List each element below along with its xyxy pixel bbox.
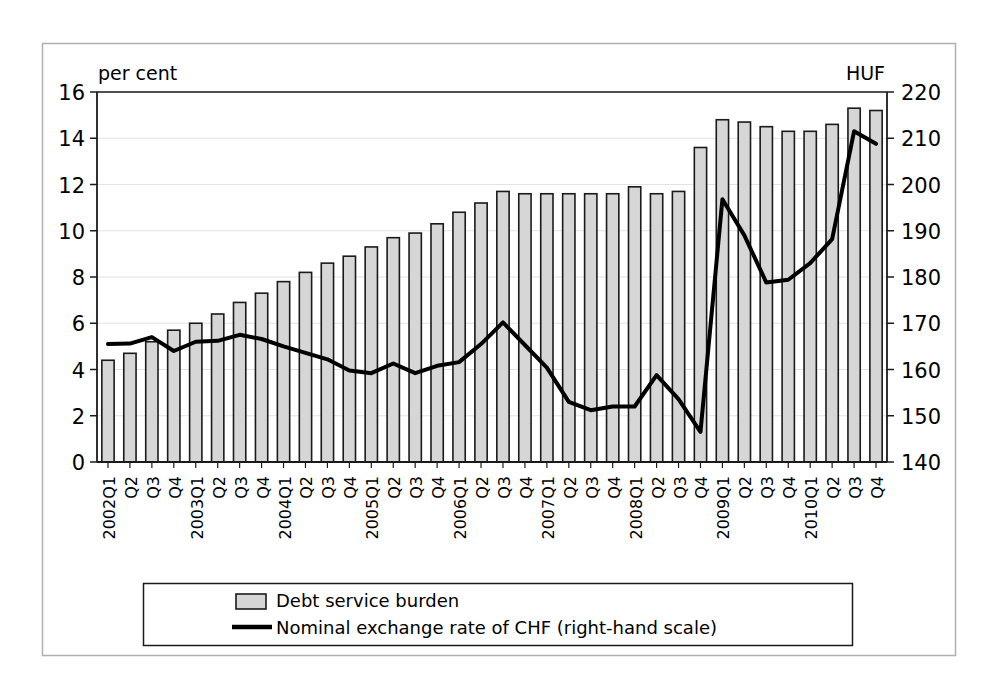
bar — [475, 203, 487, 462]
bar — [826, 124, 838, 462]
x-tick-label: 2010Q1 — [802, 476, 821, 540]
bar — [277, 282, 289, 462]
x-tick-label: 2007Q1 — [539, 476, 558, 540]
x-tick-label: Q4 — [429, 476, 448, 499]
legend-swatch-bar — [236, 594, 266, 609]
x-tick-label: Q2 — [649, 476, 668, 499]
bar — [519, 194, 531, 462]
x-tick-label: Q2 — [385, 476, 404, 499]
bar — [672, 191, 684, 462]
y2-tick-label: 140 — [901, 451, 941, 475]
y2-tick-label: 160 — [901, 359, 941, 383]
y-tick-label: 14 — [58, 127, 85, 151]
chart-figure: 0246810121416140150160170180190200210220… — [0, 0, 1002, 690]
x-tick-label: Q3 — [495, 476, 514, 499]
bar — [431, 224, 443, 462]
bar — [102, 360, 114, 462]
x-tick-label: Q4 — [780, 476, 799, 499]
y-tick-label: 16 — [58, 81, 85, 105]
y2-tick-label: 220 — [901, 81, 941, 105]
x-tick-label: Q3 — [232, 476, 251, 499]
x-tick-label: Q3 — [758, 476, 777, 499]
x-tick-label: Q2 — [736, 476, 755, 499]
bar — [650, 194, 662, 462]
x-tick-label: 2009Q1 — [714, 476, 733, 540]
x-tick-label: Q2 — [297, 476, 316, 499]
x-tick-label: Q2 — [473, 476, 492, 499]
bar — [782, 131, 794, 462]
bar — [541, 194, 553, 462]
x-tick-label: Q4 — [254, 476, 273, 499]
bar — [365, 247, 377, 462]
bar — [804, 131, 816, 462]
legend: Debt service burdenNominal exchange rate… — [144, 584, 853, 646]
bar — [387, 238, 399, 462]
y2-tick-label: 210 — [901, 127, 941, 151]
y-axis-unit-label: per cent — [98, 62, 177, 84]
x-tick-label: Q3 — [846, 476, 865, 499]
bar — [343, 256, 355, 462]
x-tick-label: 2004Q1 — [276, 476, 295, 540]
bar — [585, 194, 597, 462]
legend-label-debt-service-burden: Debt service burden — [276, 590, 459, 611]
y2-tick-label: 190 — [901, 220, 941, 244]
x-tick-label: Q2 — [561, 476, 580, 499]
bar — [563, 194, 575, 462]
x-tick-label: Q3 — [319, 476, 338, 499]
y-tick-label: 0 — [72, 451, 85, 475]
x-tick-label: Q3 — [671, 476, 690, 499]
x-tick-label: Q2 — [210, 476, 229, 499]
x-tick-label: 2005Q1 — [363, 476, 382, 540]
x-tick-label: Q4 — [692, 476, 711, 499]
exchange-rate-debt-service-chart: 0246810121416140150160170180190200210220… — [0, 0, 1002, 690]
bar — [628, 187, 640, 462]
y2-axis-unit-label: HUF — [846, 62, 885, 84]
y-tick-label: 8 — [72, 266, 85, 290]
x-tick-label: Q4 — [341, 476, 360, 499]
y2-tick-label: 150 — [901, 405, 941, 429]
y-tick-label: 6 — [72, 312, 85, 336]
y-tick-label: 10 — [58, 220, 85, 244]
bar — [146, 342, 158, 462]
y-tick-label: 4 — [72, 359, 85, 383]
x-tick-label: Q3 — [144, 476, 163, 499]
y2-tick-label: 200 — [901, 174, 941, 198]
x-tick-label: Q2 — [122, 476, 141, 499]
bar — [738, 122, 750, 462]
x-tick-label: 2002Q1 — [100, 476, 119, 540]
y2-tick-label: 180 — [901, 266, 941, 290]
x-tick-label: Q4 — [517, 476, 536, 499]
x-tick-label: 2008Q1 — [627, 476, 646, 540]
x-tick-label: 2003Q1 — [188, 476, 207, 540]
x-tick-label: Q3 — [583, 476, 602, 499]
bar — [299, 272, 311, 462]
x-tick-label: Q4 — [605, 476, 624, 499]
legend-label-chf-exchange-rate: Nominal exchange rate of CHF (right-hand… — [276, 617, 717, 638]
bar — [124, 353, 136, 462]
x-tick-label: Q3 — [407, 476, 426, 499]
bar — [255, 293, 267, 462]
bar — [716, 120, 728, 462]
bar — [233, 302, 245, 462]
x-tick-label: Q4 — [166, 476, 185, 499]
bar — [760, 127, 772, 462]
y-tick-label: 12 — [58, 174, 85, 198]
x-tick-label: 2006Q1 — [451, 476, 470, 540]
x-tick-label: Q2 — [824, 476, 843, 499]
bar — [212, 314, 224, 462]
y2-tick-label: 170 — [901, 312, 941, 336]
bar — [870, 111, 882, 463]
bar — [607, 194, 619, 462]
x-tick-label: Q4 — [868, 476, 887, 499]
y-tick-label: 2 — [72, 405, 85, 429]
bar — [409, 233, 421, 462]
bar — [453, 212, 465, 462]
